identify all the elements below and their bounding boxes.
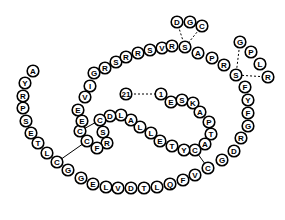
residue-t: T [166, 140, 178, 152]
residue-y: Y [19, 77, 31, 89]
residue-label: R [238, 134, 244, 143]
residue-label: G [65, 166, 71, 175]
residue-l: L [151, 181, 163, 193]
residue-s: S [144, 44, 156, 56]
residue-label: F [246, 109, 251, 118]
residue-1: 1 [155, 88, 167, 100]
residue-label: Y [181, 146, 187, 155]
residue-l: L [100, 181, 112, 193]
residue-a: A [27, 65, 39, 77]
residue-f: F [91, 142, 103, 154]
residue-label: 1 [159, 90, 164, 99]
residue-label: T [142, 184, 147, 193]
residue-f: F [177, 174, 189, 186]
residue-label: Y [245, 96, 251, 105]
residue-s: S [20, 115, 32, 127]
residue-label: T [209, 130, 214, 139]
residue-label: C [84, 137, 90, 146]
residue-label: V [159, 44, 165, 53]
residue-label: A [195, 49, 201, 58]
residue-q: Q [164, 178, 176, 190]
residue-p: P [203, 116, 215, 128]
residue-l: L [115, 109, 127, 121]
residue-label: P [206, 118, 212, 127]
residue-label: C [54, 158, 60, 167]
residue-label: R [135, 49, 141, 58]
residue-r: R [132, 47, 144, 59]
residue-g: G [75, 172, 87, 184]
residue-label: Q [167, 180, 173, 189]
residue-y: Y [242, 94, 254, 106]
residue-e: E [72, 104, 84, 116]
residue-label: C [205, 164, 211, 173]
residue-g: G [216, 154, 228, 166]
residue-label: L [258, 60, 263, 69]
residue-l: L [254, 58, 266, 70]
residue-label: S [182, 43, 188, 52]
residue-f: F [242, 107, 254, 119]
residue-g: G [234, 36, 246, 48]
residue-label: C [199, 22, 205, 31]
residue-label: F [181, 176, 186, 185]
residue-label: R [123, 53, 129, 62]
residue-label: A [30, 67, 36, 76]
residue-label: C [77, 127, 83, 136]
residue-label: R [102, 64, 108, 73]
residue-label: L [149, 129, 154, 138]
residue-s: S [176, 94, 188, 106]
residue-label: F [243, 83, 248, 92]
residue-label: G [91, 69, 97, 78]
residue-f: F [239, 81, 251, 93]
residue-label: P [20, 104, 26, 113]
residue-label: L [104, 183, 109, 192]
residue-label: G [237, 38, 243, 47]
residue-label: Y [22, 79, 28, 88]
residue-s: S [230, 69, 242, 81]
residue-label: A [128, 116, 134, 125]
residue-label: E [157, 137, 163, 146]
residue-label: V [192, 171, 198, 180]
residue-label: E [28, 129, 34, 138]
residue-p: P [206, 52, 218, 64]
residue-label: R [104, 139, 110, 148]
residue-label: L [155, 183, 160, 192]
residue-e: E [165, 96, 177, 108]
residue-label: I [89, 82, 91, 91]
residue-label: K [190, 99, 196, 108]
residue-label: T [36, 139, 41, 148]
residue-label: G [219, 156, 225, 165]
residue-chain: 211ESKAPTACYTELLALDCSRFCCEEVIGRSRRSVRSAP… [17, 16, 274, 194]
residue-r: R [166, 40, 178, 52]
residue-r: R [120, 51, 132, 63]
residue-i: I [84, 80, 96, 92]
residue-label: D [128, 184, 134, 193]
residue-r: R [99, 62, 111, 74]
residue-label: F [95, 144, 100, 153]
residue-label: P [209, 54, 215, 63]
residue-label: 21 [122, 90, 131, 99]
residue-label: R [221, 61, 227, 70]
residue-g: G [62, 164, 74, 176]
residue-label: A [197, 108, 203, 117]
residue-r: R [218, 59, 230, 71]
residue-label: A [202, 140, 208, 149]
residue-g: G [184, 16, 196, 28]
residue-label: T [170, 142, 175, 151]
residue-t: T [32, 137, 44, 149]
residue-label: S [233, 71, 239, 80]
residue-p: P [17, 102, 29, 114]
residue-label: S [147, 46, 153, 55]
residue-label: D [231, 147, 237, 156]
residue-label: D [174, 18, 180, 27]
residue-l: L [145, 127, 157, 139]
residue-s: S [97, 126, 109, 138]
residue-label: S [23, 117, 29, 126]
residue-label: D [107, 112, 113, 121]
residue-label: C [192, 146, 198, 155]
residue-c: C [202, 162, 214, 174]
residue-label: G [187, 18, 193, 27]
residue-g: G [88, 67, 100, 79]
residue-label: C [97, 116, 103, 125]
residue-label: E [90, 180, 96, 189]
residue-e: E [25, 127, 37, 139]
